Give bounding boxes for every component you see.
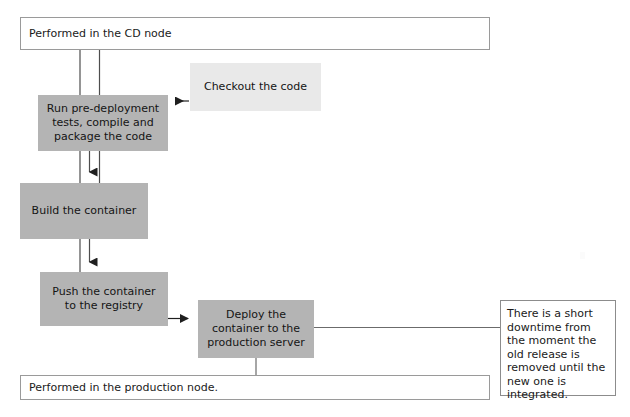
- node-run-pre-deployment-tests[interactable]: Run pre-deployment tests, compile and pa…: [38, 95, 168, 151]
- node-push-the-container[interactable]: Push the container to the registry: [40, 272, 168, 326]
- node-deploy-the-container-label: Deploy the container to the production s…: [203, 308, 308, 350]
- note-downtime-label: There is a short downtime from the momen…: [507, 307, 605, 401]
- diagram-canvas: Performed in the CD node Performed in th…: [0, 0, 630, 417]
- lane-production-node: Performed in the production node.: [20, 375, 490, 400]
- note-downtime: There is a short downtime from the momen…: [500, 300, 616, 396]
- node-build-the-container[interactable]: Build the container: [20, 183, 148, 239]
- lane-production-node-label: Performed in the production node.: [21, 381, 218, 394]
- node-run-pre-deployment-tests-label: Run pre-deployment tests, compile and pa…: [43, 102, 163, 144]
- node-build-the-container-label: Build the container: [28, 204, 141, 218]
- node-checkout-the-code-label: Checkout the code: [200, 80, 311, 94]
- node-push-the-container-label: Push the container to the registry: [48, 285, 159, 313]
- node-checkout-the-code[interactable]: Checkout the code: [190, 63, 321, 111]
- lane-cd-node: Performed in the CD node: [20, 17, 490, 50]
- lane-cd-node-label: Performed in the CD node: [21, 27, 172, 40]
- node-deploy-the-container[interactable]: Deploy the container to the production s…: [198, 300, 314, 358]
